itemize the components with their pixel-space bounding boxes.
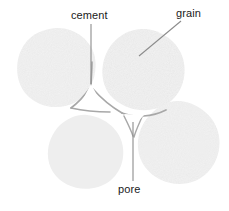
bond-lower-left-top (71, 108, 110, 112)
grain-lower-right (138, 101, 220, 184)
grain-upper-right (102, 29, 184, 110)
grain-group (17, 28, 219, 189)
grain-lower-left (48, 115, 123, 189)
grain-cement-pore-diagram: cement grain pore (0, 0, 229, 211)
diagram-canvas (0, 0, 229, 211)
label-cement: cement (71, 9, 108, 21)
label-grain: grain (176, 7, 201, 19)
label-pore: pore (118, 183, 140, 195)
